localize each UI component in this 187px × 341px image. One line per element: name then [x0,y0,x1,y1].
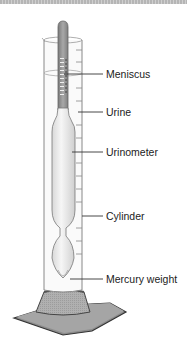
label-urinometer: Urinometer [106,146,158,158]
label-meniscus: Meniscus [106,68,150,80]
label-cylinder: Cylinder [106,210,145,222]
cylinder-base [14,289,126,335]
label-mercury-weight: Mercury weight [106,273,177,285]
urinometer-diagram [0,0,187,341]
label-urine: Urine [106,106,131,118]
